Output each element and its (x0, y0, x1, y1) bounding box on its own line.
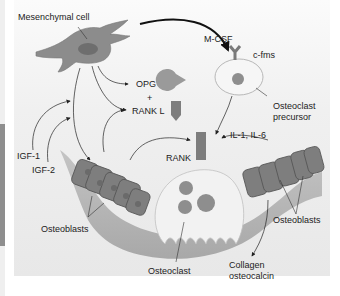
rank-l-molecule (171, 101, 181, 121)
osteoclast-precursor-label-1: Osteoclast (273, 101, 316, 111)
c-fms-label: c-fms (253, 50, 275, 60)
igf1-arrow (33, 101, 70, 150)
diagram-canvas (0, 0, 340, 296)
precursor-to-osteoclast-arrow (216, 96, 232, 134)
osteoblast-to-rankl-arrow (103, 110, 124, 152)
osteoblasts-left-label: Osteoblasts (41, 224, 89, 234)
opg-molecule (156, 69, 186, 91)
c-fms-receptor (230, 46, 240, 60)
plus-label: + (147, 93, 152, 103)
igf2-arrow (48, 118, 70, 162)
rank-l-arrow (92, 66, 126, 110)
igf2-label: IGF-2 (32, 165, 55, 175)
to-osteoblasts-arrow (73, 68, 90, 160)
osteoblasts-right-label: Osteoblasts (273, 215, 321, 225)
opg-arrow (98, 66, 128, 84)
collagen-label-2: osteocalcin (229, 271, 274, 281)
collagen-label-1: Collagen (229, 260, 265, 270)
mesenchymal-cell-label: Mesenchymal cell (18, 12, 90, 22)
rank-receptor (196, 132, 206, 160)
igf1-label: IGF-1 (17, 151, 40, 161)
rank-label: RANK (166, 153, 191, 163)
osteoclast-label: Osteoclast (148, 266, 191, 276)
m-csf-label: M-CSF (204, 34, 233, 44)
opg-label: OPG (136, 79, 156, 89)
rank-l-label: RANK L (132, 106, 165, 116)
osteoclast-precursor-label-2: precursor (273, 112, 311, 122)
mesenchymal-cell (36, 20, 130, 72)
il-label: IL-1, IL-6 (230, 130, 266, 140)
